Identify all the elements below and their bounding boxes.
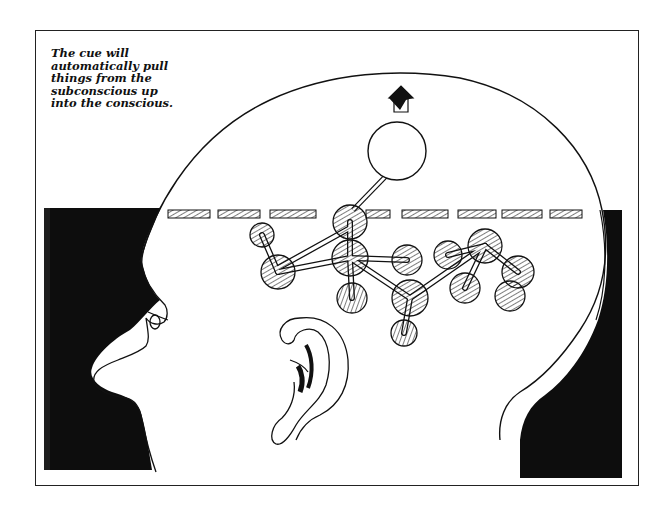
dashed-threshold-line (168, 210, 582, 218)
molecule-ball (502, 256, 534, 288)
molecule-ball (332, 240, 368, 276)
molecule-ball (392, 245, 422, 275)
molecule-ball (392, 280, 428, 316)
ear (272, 318, 349, 445)
molecule-ball (337, 283, 367, 313)
up-arrow-icon (389, 86, 413, 112)
molecule-ball (450, 273, 480, 303)
molecule-ball (333, 205, 367, 239)
molecule-ball (391, 320, 417, 346)
molecule-ball (468, 229, 502, 263)
molecule-balls (250, 205, 534, 346)
raised-empty-circle (353, 122, 426, 210)
molecule-ball (250, 223, 274, 247)
molecule-ball (261, 255, 295, 289)
molecule-ball (434, 241, 462, 269)
head-illustration (0, 0, 668, 509)
dark-hair-left (44, 208, 160, 470)
